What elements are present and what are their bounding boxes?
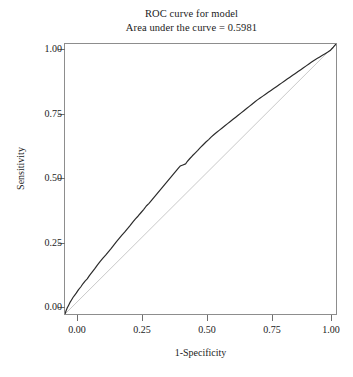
roc-chart-figure: ROC curve for model Area under the curve… (0, 0, 353, 377)
reference-diagonal-line (65, 44, 336, 314)
page-title: ROC curve for model (30, 7, 353, 21)
y-tick-label-0.75: 0.75 (22, 109, 62, 119)
chart-title-block: ROC curve for model Area under the curve… (0, 7, 353, 35)
y-tick-label-0.50: 0.50 (22, 173, 62, 183)
x-tick-mark-0.00 (77, 315, 78, 321)
y-tick-label-1.00: 1.00 (22, 44, 62, 54)
plot-area (64, 43, 337, 315)
x-tick-mark-0.50 (207, 315, 208, 321)
x-tick-label-0.75: 0.75 (250, 325, 294, 335)
x-tick-mark-1.00 (331, 315, 332, 321)
roc-plot-svg (65, 44, 336, 314)
x-tick-label-1.00: 1.00 (309, 325, 353, 335)
y-tick-label-0.25: 0.25 (22, 238, 62, 248)
x-tick-mark-0.75 (272, 315, 273, 321)
x-tick-mark-0.25 (142, 315, 143, 321)
chart-subtitle-auc: Area under the curve = 0.5981 (30, 21, 353, 35)
y-axis-title: Sensitivity (15, 124, 26, 214)
x-tick-label-0.00: 0.00 (55, 325, 99, 335)
y-tick-label-0.00: 0.00 (22, 302, 62, 312)
x-axis-title: 1-Specificity (64, 347, 337, 358)
x-tick-label-0.25: 0.25 (120, 325, 164, 335)
x-tick-label-0.50: 0.50 (185, 325, 229, 335)
